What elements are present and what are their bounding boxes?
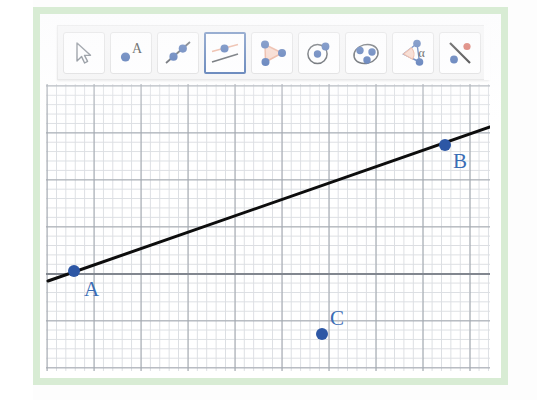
tool-button-reflect[interactable] bbox=[439, 32, 481, 74]
line-ab bbox=[48, 127, 490, 281]
tool-button-line[interactable] bbox=[157, 32, 199, 74]
point-b[interactable] bbox=[439, 139, 451, 151]
point-label-a: A bbox=[84, 279, 100, 300]
line-through-points-icon bbox=[163, 38, 193, 68]
tool-button-parallel-line[interactable] bbox=[204, 32, 246, 74]
tool-button-move[interactable] bbox=[63, 32, 105, 74]
cursor-arrow-icon bbox=[69, 38, 99, 68]
tool-button-circle[interactable] bbox=[298, 32, 340, 74]
circle-center-point-icon bbox=[304, 38, 334, 68]
tool-toolbar[interactable]: Aα bbox=[57, 25, 489, 80]
angle-alpha-icon: α bbox=[398, 38, 428, 68]
point-a-icon: A bbox=[116, 38, 146, 68]
tool-button-ellipse[interactable] bbox=[345, 32, 387, 74]
point-c[interactable] bbox=[316, 328, 328, 340]
page-left-margin bbox=[0, 0, 33, 400]
tool-button-point[interactable]: A bbox=[110, 32, 152, 74]
point-label-c: C bbox=[330, 308, 345, 329]
line-ab-stroke[interactable] bbox=[48, 127, 490, 281]
graphics-view[interactable]: A B C bbox=[46, 84, 490, 371]
tool-button-polygon[interactable] bbox=[251, 32, 293, 74]
screenshot-root: A B C Aα bbox=[0, 0, 537, 400]
triangle-polygon-icon bbox=[257, 38, 287, 68]
toolbar-right-clip bbox=[484, 25, 490, 80]
svg-text:α: α bbox=[419, 46, 426, 60]
reflect-about-line-icon bbox=[445, 38, 475, 68]
point-markers bbox=[68, 139, 451, 340]
point-label-b: B bbox=[453, 151, 468, 172]
point-a[interactable] bbox=[68, 265, 80, 277]
svg-text:A: A bbox=[132, 40, 143, 55]
ellipse-three-points-icon bbox=[351, 38, 381, 68]
parallel-line-icon bbox=[210, 38, 240, 68]
tool-button-angle[interactable]: α bbox=[392, 32, 434, 74]
geometry-objects bbox=[46, 84, 490, 371]
